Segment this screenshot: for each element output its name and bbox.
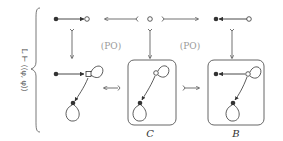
vertical-arrow-left — [70, 29, 74, 58]
top-left-graph — [54, 17, 90, 22]
top-right-graph — [214, 17, 252, 22]
bottom-left-arrow — [104, 86, 120, 91]
object-b-label: B — [231, 128, 239, 139]
vertical-arrow-middle — [148, 29, 152, 58]
span-diagram: L ⊢ ⟨⟨φ, φ⟩⟩ (PO) (PO) — [0, 0, 283, 141]
left-brace — [31, 8, 40, 132]
po-label-left: (PO) — [101, 41, 121, 51]
object-b-box — [208, 60, 264, 125]
po-label-right: (PO) — [180, 41, 200, 51]
top-middle-node — [148, 17, 153, 22]
bottom-left-graph — [54, 66, 103, 121]
object-c-box — [128, 60, 176, 125]
side-label: L ⊢ ⟨⟨φ, φ⟩⟩ — [20, 48, 29, 91]
object-c-label: C — [146, 128, 154, 139]
bottom-right-arrow — [183, 86, 199, 91]
vertical-arrow-right — [230, 29, 234, 58]
